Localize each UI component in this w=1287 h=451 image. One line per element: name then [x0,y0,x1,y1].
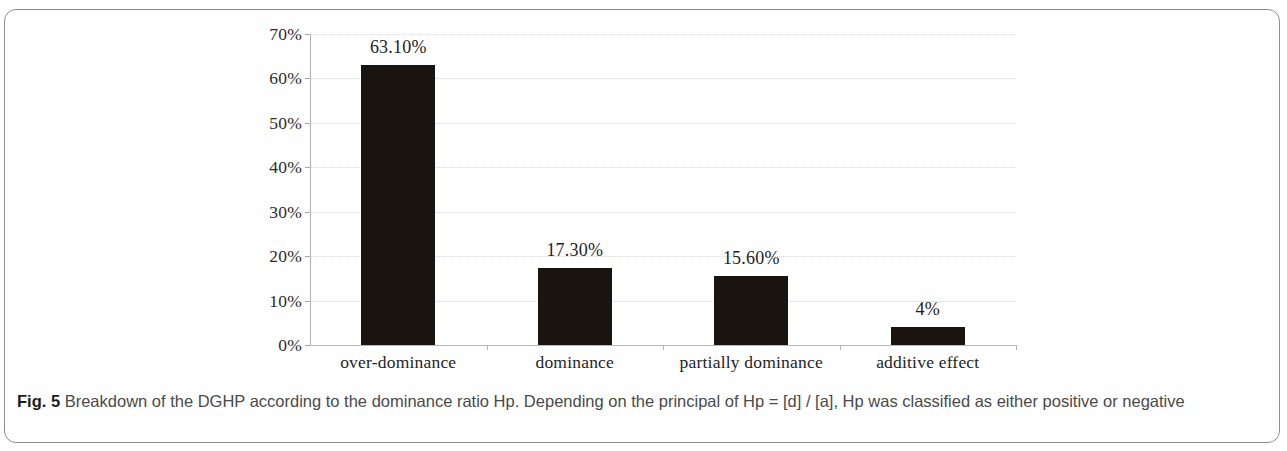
bar-value-label: 63.10% [370,37,427,58]
y-axis-line [310,34,311,345]
figure-container: 0%10%20%30%40%50%60%70% 63.10%17.30%15.6… [0,0,1287,451]
y-axis-tick-label: 20% [269,246,302,267]
plot-area: 63.10%17.30%15.60%4% [310,34,1016,345]
y-axis-labels: 0%10%20%30%40%50%60%70% [242,34,302,345]
y-axis-tick-label: 70% [269,24,302,45]
y-axis-tick-label: 60% [269,68,302,89]
bar[interactable] [714,276,788,345]
y-axis-tick [305,212,310,213]
y-axis-tick [305,123,310,124]
bar-value-label: 4% [916,299,940,320]
bar-chart: 0%10%20%30%40%50%60%70% 63.10%17.30%15.6… [0,0,1287,390]
bar[interactable] [361,65,435,345]
y-axis-tick-label: 50% [269,112,302,133]
y-axis-tick [305,34,310,35]
x-axis-tick [840,345,841,350]
x-axis-category-label: over-dominance [340,352,456,373]
x-axis-tick [1016,345,1017,350]
y-axis-tick [305,78,310,79]
y-axis-tick [305,345,310,346]
bar-value-label: 15.60% [723,248,780,269]
y-axis-tick-label: 0% [278,335,302,356]
y-axis-tick-label: 10% [269,290,302,311]
figure-caption: Fig. 5 Breakdown of the DGHP according t… [17,390,1257,412]
x-axis-tick [663,345,664,350]
y-axis-tick-label: 40% [269,157,302,178]
figure-caption-text: Breakdown of the DGHP according to the d… [60,392,1185,410]
x-axis-category-label: additive effect [876,352,979,373]
y-axis-tick [305,301,310,302]
x-axis-category-label: dominance [535,352,614,373]
y-axis-tick [305,167,310,168]
y-axis-tick-label: 30% [269,201,302,222]
y-axis-tick [305,256,310,257]
figure-caption-label: Fig. 5 [17,392,60,410]
x-axis-tick [487,345,488,350]
bar[interactable] [891,327,965,345]
bar[interactable] [538,268,612,345]
gridline [310,34,1016,35]
bar-value-label: 17.30% [546,240,603,261]
x-axis-category-label: partially dominance [680,352,823,373]
